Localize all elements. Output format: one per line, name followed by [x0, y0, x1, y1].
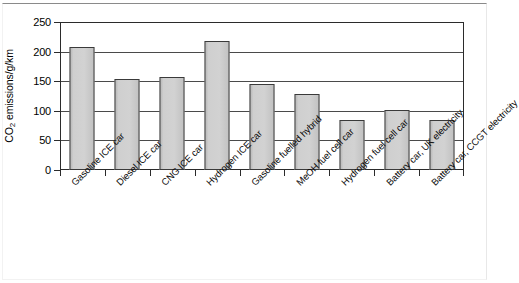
x-tick-label: CNG ICE car: [159, 142, 205, 188]
x-tick-label: Battery car, UK electricity: [384, 107, 465, 188]
x-tick-label: Battery car, CCGT electricity: [429, 97, 519, 187]
x-tick-label: Diesel ICE car: [114, 138, 164, 188]
